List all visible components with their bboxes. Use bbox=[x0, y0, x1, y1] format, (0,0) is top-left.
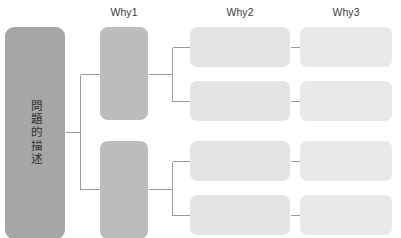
why1-node-1[interactable] bbox=[100, 27, 148, 120]
why3-node-1[interactable] bbox=[300, 27, 392, 67]
connector-why1-top-branch bbox=[149, 48, 191, 102]
column-header-why1-label: Why1 bbox=[110, 6, 137, 18]
why3-node-2[interactable] bbox=[300, 81, 392, 121]
why2-node-2[interactable] bbox=[190, 81, 290, 121]
problem-description-box[interactable]: 問題的描述 bbox=[5, 27, 65, 238]
why3-node-3[interactable] bbox=[300, 141, 392, 181]
why2-node-4[interactable] bbox=[190, 195, 290, 235]
connector-why1-bottom-branch bbox=[149, 162, 191, 216]
why3-node-4[interactable] bbox=[300, 195, 392, 235]
column-header-why2: Why2 bbox=[190, 6, 290, 18]
why2-node-3[interactable] bbox=[190, 141, 290, 181]
five-why-diagram: Why1 Why2 Why3 問題的描述 bbox=[0, 0, 401, 238]
column-header-why1: Why1 bbox=[100, 6, 148, 18]
column-header-why3: Why3 bbox=[300, 6, 392, 18]
connector-problem-trunk bbox=[66, 75, 101, 190]
why2-node-1[interactable] bbox=[190, 27, 290, 67]
problem-description-text-wrap: 問題的描述 bbox=[5, 27, 65, 238]
problem-description-label: 問題的描述 bbox=[28, 100, 42, 166]
column-header-why2-label: Why2 bbox=[226, 6, 253, 18]
column-header-why3-label: Why3 bbox=[332, 6, 359, 18]
why1-node-2[interactable] bbox=[100, 141, 148, 238]
